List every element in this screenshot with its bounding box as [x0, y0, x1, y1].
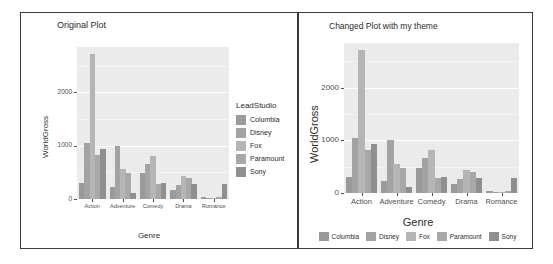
legend-item-paramount: Paramount — [437, 232, 482, 241]
figure-frame: Original Plot WorldGross Genre 010002000… — [20, 12, 533, 249]
x-axis-title-themed: Genre — [338, 216, 498, 228]
bar — [130, 193, 136, 199]
bar — [441, 177, 447, 193]
legend-label-paramount: Paramount — [250, 155, 284, 162]
bar — [476, 178, 482, 193]
y-tick-mark — [74, 92, 77, 93]
x-tick-mark — [467, 193, 468, 196]
legend-label-disney: Disney — [379, 233, 399, 240]
y-tick-mark — [341, 193, 344, 194]
legend-item-paramount: Paramount — [236, 152, 284, 165]
plot-title-original: Original Plot — [57, 20, 106, 30]
gridline-minor — [344, 114, 519, 115]
x-tick-mark — [214, 199, 215, 202]
y-tick-label: 0 — [43, 195, 72, 202]
legend-swatch-sony — [489, 232, 499, 241]
x-tick-mark — [397, 193, 398, 196]
y-axis-title-themed: WorldGross — [308, 105, 320, 163]
screenshot-root: Original Plot WorldGross Genre 010002000… — [0, 0, 553, 264]
bar — [222, 184, 228, 199]
x-tick-mark — [92, 199, 93, 202]
legend-swatch-disney — [236, 128, 246, 138]
bar — [511, 178, 517, 193]
y-tick-mark — [74, 146, 77, 147]
legend-label-paramount: Paramount — [450, 233, 482, 240]
x-tick-label: Romance — [193, 203, 235, 209]
gridline-minor — [77, 119, 229, 120]
x-axis-title-original: Genre — [79, 231, 219, 240]
legend-item-fox: Fox — [406, 232, 430, 241]
gridline — [77, 92, 229, 93]
y-tick-mark — [341, 140, 344, 141]
bar — [100, 149, 106, 199]
legend-label-columbia: Columbia — [332, 233, 359, 240]
legend-swatch-paramount — [236, 154, 246, 164]
x-tick-mark — [153, 199, 154, 202]
y-axis-title-original: WorldGross — [41, 116, 50, 158]
gridline — [344, 88, 519, 89]
y-tick-label: 2000 — [43, 88, 72, 95]
legend-swatch-disney — [366, 232, 376, 241]
bar — [161, 183, 167, 199]
bar — [406, 187, 412, 193]
legend-swatch-fox — [406, 232, 416, 241]
gridline — [344, 140, 519, 141]
legend-item-sony: Sony — [236, 165, 284, 178]
legend-item-sony: Sony — [489, 232, 517, 241]
y-tick-label: 0 — [310, 188, 339, 197]
y-tick-mark — [74, 199, 77, 200]
gridline-minor — [344, 61, 519, 62]
legend-swatch-sony — [236, 167, 246, 177]
legend-label-fox: Fox — [250, 142, 262, 149]
legend-original: LeadStudio ColumbiaDisneyFoxParamountSon… — [236, 101, 284, 178]
y-tick-label: 1000 — [43, 141, 72, 148]
legend-item-fox: Fox — [236, 139, 284, 152]
legend-themed: ColumbiaDisneyFoxParamountSony — [310, 232, 525, 241]
legend-item-disney: Disney — [366, 232, 399, 241]
bar — [191, 184, 197, 199]
chart-panel-themed: Changed Plot with my theme WorldGross Ge… — [298, 13, 532, 248]
legend-label-columbia: Columbia — [250, 116, 280, 123]
legend-item-columbia: Columbia — [236, 113, 284, 126]
legend-swatch-columbia — [319, 232, 329, 241]
x-tick-label: Romance — [478, 197, 525, 206]
legend-title-original: LeadStudio — [236, 101, 284, 110]
legend-item-columbia: Columbia — [319, 232, 359, 241]
y-tick-label: 2000 — [310, 83, 339, 92]
legend-label-fox: Fox — [419, 233, 430, 240]
plot-title-themed: Changed Plot with my theme — [329, 21, 438, 31]
x-tick-mark — [362, 193, 363, 196]
gridline — [77, 146, 229, 147]
legend-swatch-fox — [236, 141, 246, 151]
bar — [371, 144, 377, 193]
x-tick-mark — [502, 193, 503, 196]
legend-label-disney: Disney — [250, 129, 271, 136]
legend-swatch-columbia — [236, 115, 246, 125]
y-tick-label: 1000 — [310, 135, 339, 144]
x-tick-mark — [183, 199, 184, 202]
legend-swatch-paramount — [437, 232, 447, 241]
legend-item-disney: Disney — [236, 126, 284, 139]
x-tick-mark — [123, 199, 124, 202]
gridline-minor — [77, 66, 229, 67]
legend-label-sony: Sony — [502, 233, 517, 240]
legend-label-sony: Sony — [250, 168, 266, 175]
chart-panel-original: Original Plot WorldGross Genre 010002000… — [21, 13, 297, 248]
y-tick-mark — [341, 88, 344, 89]
x-tick-mark — [432, 193, 433, 196]
